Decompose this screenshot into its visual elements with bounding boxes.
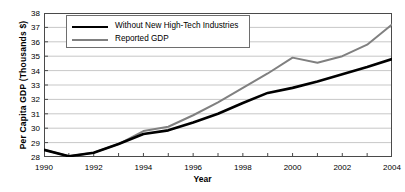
y-tick-label: 35 [31,52,40,61]
x-tick-label: 2004 [383,163,401,172]
y-axis-title: Per Capita GDP (Thousands $) [18,10,28,160]
legend-item-without-high-tech: Without New High-Tech Industries [72,20,249,33]
y-tick-label: 37 [31,23,40,32]
x-tick-label: 2000 [284,163,302,172]
legend-swatch-black [72,26,108,28]
y-tick-label: 36 [31,37,40,46]
legend-label-without-high-tech: Without New High-Tech Industries [115,22,238,30]
y-tick-label: 28 [31,153,40,162]
x-tick-label: 1990 [35,163,53,172]
x-axis-title: Year [0,174,405,184]
x-tick-label: 2002 [333,163,351,172]
x-tick-label: 1998 [234,163,252,172]
y-tick-label: 33 [31,81,40,90]
y-tick-label: 32 [31,95,40,104]
y-tick-label: 31 [31,109,40,118]
x-tick-label: 1992 [85,163,103,172]
legend-item-reported-gdp: Reported GDP [72,33,249,46]
y-tick-label: 30 [31,124,40,133]
legend-swatch-gray [72,39,108,41]
y-tick-label: 34 [31,66,40,75]
chart-legend: Without New High-Tech Industries Reporte… [66,15,250,48]
x-tick-label: 1996 [184,163,202,172]
y-tick-label: 29 [31,138,40,147]
x-tick-label: 1994 [135,163,153,172]
y-tick-label: 38 [31,9,40,18]
legend-label-reported-gdp: Reported GDP [115,35,169,43]
gdp-line-chart: Per Capita GDP (Thousands $) Year 282930… [0,0,405,192]
